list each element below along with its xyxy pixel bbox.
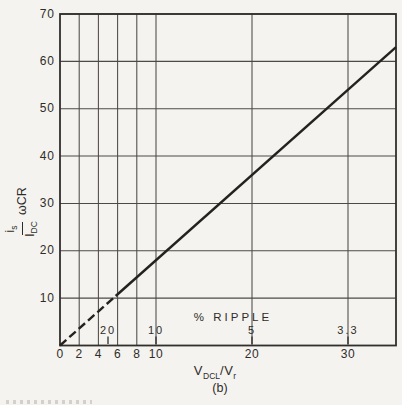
y-tick-label: 70 bbox=[0, 7, 55, 22]
y-tick-label: 10 bbox=[0, 291, 55, 306]
y-axis-fraction: isIDC bbox=[4, 221, 40, 237]
fraction-denominator: IDC bbox=[23, 221, 40, 237]
y-tick-label: 50 bbox=[0, 101, 55, 116]
ripple-value-label: 10 bbox=[134, 324, 178, 336]
y-axis-factor: ωCR bbox=[15, 187, 29, 215]
figure: 10203040506070 02468102030 201053.3 % RI… bbox=[0, 0, 402, 405]
y-tick-label: 60 bbox=[0, 54, 55, 69]
data-line-solid bbox=[116, 47, 396, 296]
x-tick-label: 20 bbox=[238, 348, 266, 361]
ripple-value-label: 3.3 bbox=[326, 324, 370, 336]
plot-svg bbox=[0, 0, 402, 405]
x-tick-label: 30 bbox=[334, 348, 362, 361]
x-axis-label: VDCL/Vr bbox=[160, 363, 270, 381]
data-line-dashed bbox=[60, 296, 116, 345]
fraction-numerator: is bbox=[4, 222, 22, 235]
ripple-scale-title: % RIPPLE bbox=[185, 311, 281, 323]
cut-off-caption-smudge bbox=[6, 400, 92, 404]
y-tick-label: 40 bbox=[0, 149, 55, 164]
ripple-value-label: 20 bbox=[86, 324, 130, 336]
subfigure-caption: (b) bbox=[190, 381, 250, 395]
plot-border bbox=[60, 14, 396, 346]
ripple-value-label: 5 bbox=[230, 324, 274, 336]
y-axis-label: isIDC ωCR bbox=[5, 175, 39, 249]
x-tick-label: 10 bbox=[142, 348, 170, 361]
